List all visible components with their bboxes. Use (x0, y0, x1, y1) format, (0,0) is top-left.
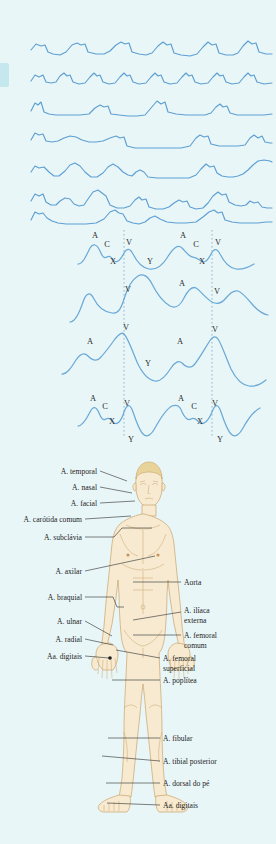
leader-a-nasal (100, 487, 132, 493)
figure-page: A C V X Y A C V X V A V V A A (0, 0, 276, 844)
marker-aa-digitais-hand (108, 656, 112, 660)
label-a-nasal: A. nasal (72, 483, 97, 492)
label-a-tibial-posterior: A. tibial posterior (163, 757, 217, 766)
svg-text:A: A (87, 337, 93, 346)
svg-text:X: X (109, 417, 115, 426)
pressure-waveform-panel (0, 28, 276, 223)
label-aa-digitais-foot: Aa. digitais (163, 801, 198, 810)
svg-text:Y: Y (217, 435, 223, 444)
svg-text:A: A (92, 231, 98, 240)
leader-a-carotida-comum (85, 516, 131, 519)
svg-text:C: C (191, 402, 197, 411)
svg-text:V: V (126, 238, 132, 247)
leader-a-radial (85, 639, 113, 645)
jvp-trace-4-labels: A C V X Y A C V X Y (90, 394, 223, 444)
svg-text:Y: Y (145, 359, 151, 368)
svg-text:C: C (104, 240, 110, 249)
label-a-femoral-comum-line2: comum (184, 641, 207, 650)
label-a-dorsal-do-pe: A. dorsal do pé (163, 779, 210, 788)
label-a-subclavia: A. subclávia (44, 533, 83, 542)
label-a-iliaca-externa: A. ilíaca (184, 606, 210, 615)
label-a-radial: A. radial (55, 635, 82, 644)
svg-text:V: V (124, 399, 130, 408)
hand-left (92, 643, 118, 679)
label-a-femoral-comum: A. femoral (184, 631, 217, 640)
svg-text:C: C (102, 402, 108, 411)
label-a-braquial: A. braquial (48, 593, 82, 602)
svg-text:V: V (215, 238, 221, 247)
label-a-iliaca-externa-line2: externa (184, 616, 207, 625)
svg-text:X: X (199, 257, 205, 266)
svg-text:V: V (123, 323, 129, 332)
jvp-traces-svg: A C V X Y A C V X V A V V A A (0, 226, 276, 446)
pressure-trace-7 (31, 210, 272, 224)
svg-text:Y: Y (128, 435, 134, 444)
arterial-anatomy-panel: A. temporal A. nasal A. facial A. caróti… (0, 452, 276, 844)
svg-text:V: V (212, 399, 218, 408)
label-a-temporal: A. temporal (61, 467, 97, 476)
label-a-fibular: A. fibular (163, 734, 193, 743)
label-aorta: Aorta (184, 578, 202, 587)
pressure-trace-1 (31, 41, 272, 56)
pressure-traces-svg (0, 28, 276, 223)
svg-text:A: A (178, 394, 184, 403)
ear-left (133, 483, 136, 491)
svg-text:Y: Y (147, 257, 153, 266)
jvp-trace-2 (70, 275, 268, 322)
svg-text:X: X (197, 417, 203, 426)
pressure-trace-4 (31, 133, 272, 148)
jvp-trace-3-labels: V A A V Y (87, 323, 218, 368)
label-a-femoral-superficial-line2: superficial (163, 664, 195, 673)
svg-text:A: A (177, 337, 183, 346)
svg-text:A: A (90, 394, 96, 403)
ear-right (162, 483, 165, 491)
svg-text:A: A (179, 279, 185, 288)
pressure-trace-6 (31, 190, 272, 209)
pressure-trace-5 (31, 160, 272, 178)
label-a-axilar: A. axilar (55, 567, 82, 576)
svg-text:V: V (214, 287, 220, 296)
pressure-trace-2 (31, 73, 272, 84)
label-aa-digitais-hand: Aa. digitais (47, 652, 82, 661)
leader-a-facial (100, 501, 135, 503)
label-a-ulnar: A. ulnar (57, 617, 82, 626)
jugular-venous-pulse-panel: A C V X Y A C V X V A V V A A (0, 226, 276, 446)
svg-text:V: V (125, 285, 131, 294)
nipple-left (126, 553, 129, 556)
svg-text:C: C (193, 240, 199, 249)
leader-a-temporal (100, 471, 127, 481)
svg-text:V: V (212, 325, 218, 334)
anatomy-svg: A. temporal A. nasal A. facial A. caróti… (0, 452, 276, 844)
label-a-femoral-superficial: A. femoral (163, 654, 196, 663)
leader-a-braquial (85, 597, 124, 607)
label-a-poplitea: A. poplítea (163, 676, 197, 685)
jvp-trace-2-labels: V A V (125, 279, 220, 296)
label-a-facial: A. facial (71, 499, 97, 508)
label-a-carotida-comum: A. carótida comum (24, 515, 83, 524)
nipple-right (156, 553, 159, 556)
jvp-trace-1-labels: A C V X Y A C V X (92, 231, 221, 266)
svg-text:X: X (110, 257, 116, 266)
svg-text:A: A (180, 231, 186, 240)
pressure-trace-3 (31, 101, 272, 116)
